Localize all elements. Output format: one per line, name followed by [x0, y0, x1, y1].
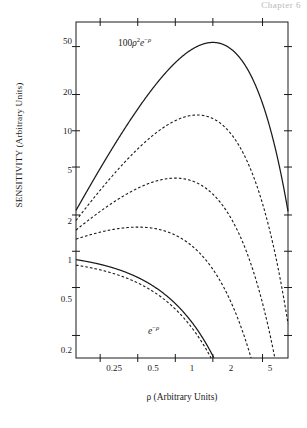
figure-panel: Chapter 6 SENSITIVITY (Arbitrary Units) … [0, 0, 307, 428]
curve-3 [76, 227, 251, 358]
data-curves [76, 42, 288, 358]
curve-4 [76, 265, 211, 358]
curve-5 [76, 260, 214, 358]
curve-1 [76, 115, 288, 324]
curve-0 [76, 42, 288, 211]
plot-frame [76, 22, 288, 358]
curve-2 [76, 178, 275, 357]
plot-canvas [0, 0, 307, 428]
